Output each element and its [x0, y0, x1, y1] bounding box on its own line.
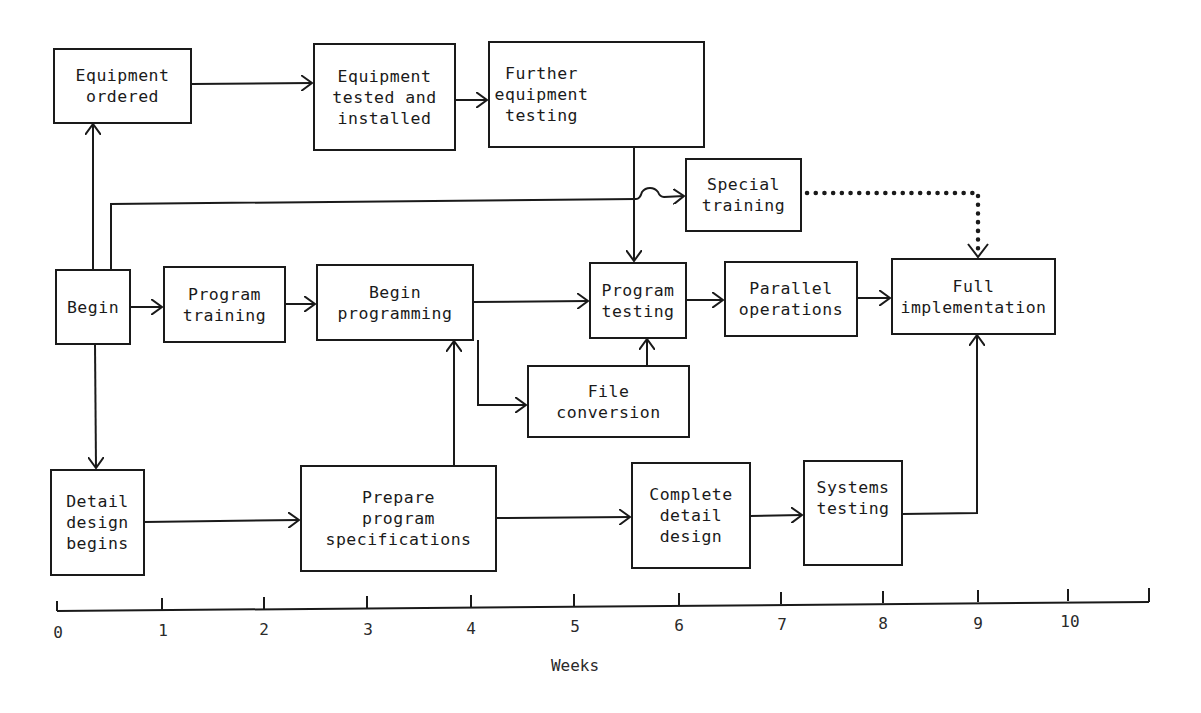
weeks-axis	[57, 588, 1149, 611]
tick-label-7: 7	[777, 615, 787, 634]
node-full-implementation: Full implementation	[891, 258, 1056, 335]
edge-detail-design-prepare-specs	[144, 520, 299, 522]
node-equipment-tested-installed: Equipment tested and installed	[313, 43, 456, 151]
edge-systems-testing-full	[902, 335, 977, 514]
node-further-equipment-testing: Further equipment testing	[488, 41, 705, 148]
tick-label-4: 4	[466, 619, 476, 638]
edge-complete-design-systems-testing	[750, 515, 802, 516]
node-equipment-ordered: Equipment ordered	[53, 48, 192, 124]
node-complete-detail-design: Complete detail design	[631, 462, 751, 569]
tick-label-8: 8	[878, 614, 888, 633]
edge-begin-programming-program-testing	[473, 301, 588, 302]
node-systems-testing: Systems testing	[803, 460, 903, 566]
axis-title-weeks: Weeks	[551, 656, 599, 675]
tick-label-9: 9	[973, 614, 983, 633]
node-program-testing: Program testing	[589, 262, 687, 339]
node-prepare-program-specifications: Prepare program specifications	[300, 465, 497, 572]
node-begin-programming: Begin programming	[316, 264, 474, 341]
node-detail-design-begins: Detail design begins	[50, 469, 145, 576]
edge-equipment-ordered-tested	[191, 83, 312, 84]
tick-label-3: 3	[363, 620, 373, 639]
edge-begin-programming-file-conversion	[478, 340, 526, 405]
node-parallel-operations: Parallel operations	[724, 261, 858, 337]
node-file-conversion: File conversion	[527, 365, 690, 438]
node-begin: Begin	[55, 269, 131, 345]
node-special-training: Special training	[685, 158, 802, 232]
edge-begin-special-training	[111, 188, 684, 269]
tick-label-2: 2	[259, 620, 269, 639]
tick-label-0: 0	[53, 623, 63, 642]
tick-label-10: 10	[1060, 612, 1079, 631]
edge-prepare-specs-complete-design	[496, 517, 630, 518]
tick-label-1: 1	[158, 621, 168, 640]
tick-label-6: 6	[674, 616, 684, 635]
edge-begin-detail-design	[95, 344, 96, 468]
edge-special-training-full-dotted	[807, 193, 978, 252]
pert-diagram: Equipment ordered Equipment tested and i…	[0, 0, 1201, 713]
node-program-training: Program training	[163, 266, 286, 343]
tick-label-5: 5	[570, 617, 580, 636]
